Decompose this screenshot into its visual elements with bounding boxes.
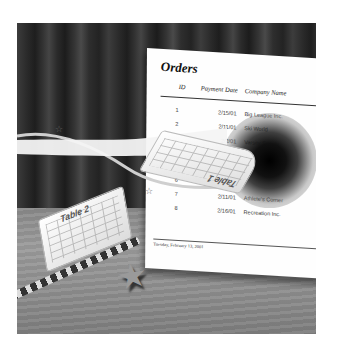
star-outline-icon: ☆ bbox=[145, 186, 153, 196]
row-company: Recreation Inc. bbox=[244, 209, 281, 217]
column-header-payment-date: Payment Date bbox=[201, 84, 238, 93]
row-id: 2 bbox=[175, 121, 178, 127]
row-date: 2/15/01 bbox=[200, 108, 236, 116]
star-outline-icon: ☆ bbox=[55, 124, 63, 134]
row-id: 1 bbox=[175, 107, 178, 113]
column-headers: ID Payment Date Company Name Payme. bbox=[161, 82, 316, 109]
illustration-scene: Orders ID Payment Date Company Name Paym… bbox=[17, 23, 316, 334]
column-header-id: ID bbox=[179, 83, 186, 90]
column-header-company-name: Company Name bbox=[245, 87, 287, 97]
report-title: Orders bbox=[161, 59, 198, 77]
report-footer-date: Tuesday, February 13, 2001 bbox=[153, 241, 203, 249]
